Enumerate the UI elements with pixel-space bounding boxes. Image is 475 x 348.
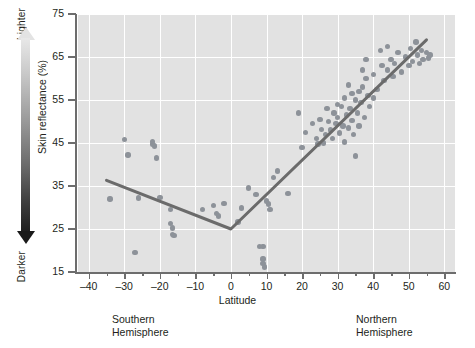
y-axis-tick bbox=[68, 56, 76, 58]
data-point bbox=[360, 67, 365, 72]
data-point bbox=[132, 250, 137, 255]
x-axis-tick-minor bbox=[284, 272, 286, 276]
x-axis-tick-major bbox=[160, 272, 162, 279]
gridline-vertical bbox=[409, 14, 410, 272]
hemisphere-southern-line2: Hemisphere bbox=[112, 326, 169, 339]
x-axis-tick-minor bbox=[213, 272, 215, 276]
data-point bbox=[171, 233, 176, 238]
data-point bbox=[342, 95, 347, 100]
data-point bbox=[353, 153, 358, 158]
data-point bbox=[413, 39, 418, 44]
data-point bbox=[211, 203, 216, 208]
data-point bbox=[200, 207, 205, 212]
data-point bbox=[337, 130, 342, 135]
y-axis-tick-label: 75 bbox=[40, 7, 64, 19]
hemisphere-label-southern: Southern Hemisphere bbox=[112, 313, 169, 339]
data-point bbox=[340, 123, 345, 128]
data-point bbox=[362, 115, 367, 120]
x-axis-tick-minor bbox=[391, 272, 393, 276]
x-axis-tick-minor bbox=[320, 272, 322, 276]
x-axis-tick-major bbox=[267, 272, 269, 279]
data-point bbox=[427, 52, 432, 57]
data-point bbox=[349, 118, 354, 123]
data-point bbox=[246, 185, 251, 190]
y-axis-tick-label: 15 bbox=[40, 265, 64, 277]
y-axis-tick bbox=[68, 228, 76, 230]
data-point bbox=[408, 46, 413, 51]
data-point bbox=[420, 57, 425, 62]
data-point bbox=[221, 201, 226, 206]
data-point bbox=[385, 67, 390, 72]
x-axis-tick-major bbox=[444, 272, 446, 279]
data-point bbox=[122, 137, 127, 142]
hemisphere-northern-line2: Hemisphere bbox=[356, 326, 413, 339]
data-point bbox=[371, 72, 376, 77]
data-point bbox=[154, 155, 159, 160]
x-axis-tick-label: 40 bbox=[353, 280, 393, 292]
x-axis-tick-label: –10 bbox=[175, 280, 215, 292]
data-point bbox=[303, 130, 308, 135]
data-point bbox=[262, 264, 267, 269]
data-point bbox=[299, 145, 304, 150]
gridline-vertical bbox=[444, 14, 445, 272]
data-point bbox=[326, 119, 331, 124]
data-point bbox=[385, 44, 390, 49]
figure-root: Lighter Darker Skin reflectance (%) Lati… bbox=[0, 0, 475, 348]
data-point bbox=[271, 175, 276, 180]
data-point bbox=[390, 74, 395, 79]
data-point bbox=[403, 54, 408, 59]
data-point bbox=[170, 225, 175, 230]
y-axis-tick-label: 55 bbox=[40, 93, 64, 105]
x-axis-tick-label: 60 bbox=[424, 280, 464, 292]
plot-area bbox=[78, 14, 455, 272]
x-axis-tick-major bbox=[409, 272, 411, 279]
x-axis-tick-minor bbox=[178, 272, 180, 276]
hemisphere-northern-line1: Northern bbox=[356, 313, 413, 326]
data-point bbox=[321, 140, 326, 145]
plot-panel bbox=[78, 14, 455, 272]
x-axis-tick-major bbox=[89, 272, 91, 279]
data-point bbox=[319, 127, 324, 132]
x-axis-tick-minor bbox=[249, 272, 251, 276]
data-point bbox=[374, 87, 379, 92]
x-axis-tick-label: 30 bbox=[318, 280, 358, 292]
x-axis-tick-label: –20 bbox=[140, 280, 180, 292]
data-point bbox=[392, 61, 397, 66]
y-axis-tick bbox=[68, 99, 76, 101]
x-axis-tick-minor bbox=[142, 272, 144, 276]
data-point bbox=[339, 104, 344, 109]
data-point bbox=[346, 82, 351, 87]
gridline-vertical bbox=[231, 14, 232, 272]
gridline-vertical bbox=[302, 14, 303, 272]
x-axis-tick-minor bbox=[427, 272, 429, 276]
data-point bbox=[363, 76, 368, 81]
gridline-vertical bbox=[160, 14, 161, 272]
x-axis-tick-label: –40 bbox=[69, 280, 109, 292]
gridline-vertical bbox=[338, 14, 339, 272]
data-point bbox=[328, 127, 333, 132]
data-point bbox=[371, 95, 376, 100]
data-point bbox=[253, 192, 258, 197]
data-point bbox=[168, 207, 173, 212]
y-axis-tick-label: 65 bbox=[40, 50, 64, 62]
data-point bbox=[399, 69, 404, 74]
arrow-down-icon bbox=[17, 231, 35, 244]
x-axis-line bbox=[75, 272, 456, 274]
gridline-vertical bbox=[89, 14, 90, 272]
data-point bbox=[125, 152, 130, 157]
x-axis-tick-label: 10 bbox=[247, 280, 287, 292]
data-point bbox=[266, 201, 271, 206]
y-axis-tick-label: 35 bbox=[40, 179, 64, 191]
data-point bbox=[355, 110, 360, 115]
data-point bbox=[410, 59, 415, 64]
data-point bbox=[395, 50, 400, 55]
data-point bbox=[378, 48, 383, 53]
skin-tone-gradient-arrow: Lighter Darker bbox=[4, 8, 38, 288]
x-axis-tick-minor bbox=[107, 272, 109, 276]
data-point bbox=[317, 117, 322, 122]
x-axis-tick-major bbox=[302, 272, 304, 279]
data-point bbox=[267, 207, 272, 212]
data-point bbox=[275, 168, 280, 173]
data-point bbox=[379, 63, 384, 68]
x-axis-tick-label: 0 bbox=[211, 280, 251, 292]
